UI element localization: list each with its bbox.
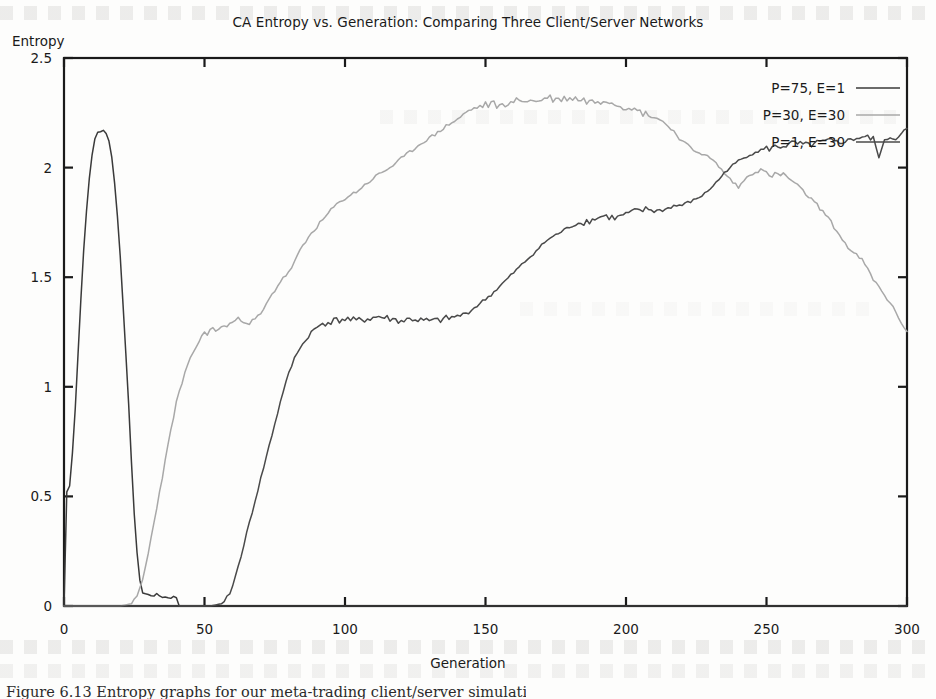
y-tick-label: 0.5	[31, 488, 52, 504]
x-tick-label: 0	[60, 621, 69, 637]
legend: P=75, E=1P=30, E=30P=1, E=30	[763, 80, 900, 150]
legend-label-3: P=1, E=30	[771, 134, 845, 150]
y-tick-label: 1	[43, 379, 52, 395]
x-tick-label: 250	[754, 621, 780, 637]
figure-root: CA Entropy vs. Generation: Comparing Thr…	[0, 0, 936, 699]
y-tick-label: 2.5	[31, 50, 52, 66]
series-line-p-30-e-30	[64, 95, 907, 606]
series-line-p-1-e-30	[64, 128, 907, 606]
x-tick-label: 50	[196, 621, 213, 637]
figure-caption: Figure 6.13 Entropy graphs for our meta-…	[6, 684, 526, 699]
y-tick-label: 0	[43, 598, 52, 614]
series-line-p-75-e-1	[64, 130, 907, 606]
series-group	[64, 95, 907, 606]
y-tick-label: 2	[43, 160, 52, 176]
legend-label-1: P=75, E=1	[771, 80, 845, 96]
x-tick-label: 150	[473, 621, 499, 637]
x-tick-label: 100	[332, 621, 358, 637]
y-tick-label: 1.5	[31, 269, 52, 285]
x-tick-label: 200	[613, 621, 639, 637]
chart-plot-area: 00.511.522.5 050100150200250300 P=75, E=…	[0, 0, 936, 699]
legend-label-2: P=30, E=30	[763, 107, 845, 123]
x-tick-label: 300	[894, 621, 920, 637]
